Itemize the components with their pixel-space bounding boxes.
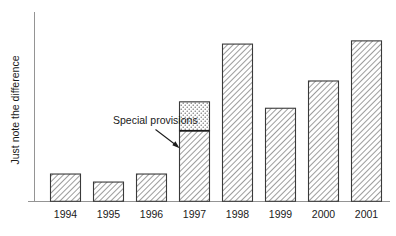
- annotation-arrow-head: [172, 141, 179, 148]
- x-tick-labels: 19941995199619971998199920002001: [54, 208, 379, 220]
- bars-layer: [51, 41, 382, 201]
- x-tick-label-1995: 1995: [97, 208, 121, 220]
- bar-2001-base: [352, 41, 382, 201]
- annotation-label: Special provisions: [113, 114, 198, 126]
- bar-group-1998: [223, 44, 253, 201]
- annotation-arrow-line: [156, 130, 177, 146]
- bar-group-1995: [94, 182, 124, 201]
- x-tick-label-2001: 2001: [355, 208, 379, 220]
- bar-chart-figure: 19941995199619971998199920002001 Just no…: [0, 0, 396, 236]
- chart-canvas: 19941995199619971998199920002001 Just no…: [0, 0, 396, 236]
- x-tick-label-1999: 1999: [269, 208, 293, 220]
- bar-1994-base: [51, 174, 81, 201]
- bar-group-2000: [309, 81, 339, 201]
- y-axis-label: Just note the difference: [9, 55, 21, 164]
- bar-group-2001: [352, 41, 382, 201]
- bar-1996-base: [137, 174, 167, 201]
- bar-1998-base: [223, 44, 253, 201]
- bar-group-1996: [137, 174, 167, 201]
- x-tick-label-1996: 1996: [140, 208, 164, 220]
- x-tick-label-2000: 2000: [312, 208, 336, 220]
- bar-2000-base: [309, 81, 339, 201]
- x-tick-label-1997: 1997: [183, 208, 207, 220]
- x-tick-label-1998: 1998: [226, 208, 250, 220]
- bar-group-1994: [51, 174, 81, 201]
- bar-1999-base: [266, 108, 296, 201]
- bar-1997-base: [180, 131, 210, 202]
- bar-1995-base: [94, 182, 124, 201]
- y-axis-label-group: Just note the difference: [9, 55, 21, 164]
- x-tick-label-1994: 1994: [54, 208, 78, 220]
- bar-group-1999: [266, 108, 296, 201]
